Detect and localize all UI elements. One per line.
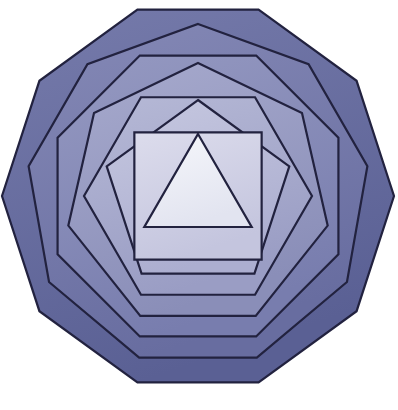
polygon-layer-group: DecagonNonagonOctagonHeptagonHexagonPent… <box>2 10 394 383</box>
nested-polygons-figure: DecagonNonagonOctagonHeptagonHexagonPent… <box>0 0 398 410</box>
polygon-canvas: DecagonNonagonOctagonHeptagonHexagonPent… <box>0 0 398 410</box>
